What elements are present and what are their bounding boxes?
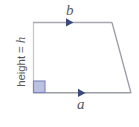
top-arrow-right-icon	[66, 18, 74, 26]
label-bottom-side-a: a	[77, 97, 85, 112]
trapezoid-diagram: b a height = h	[0, 0, 139, 127]
height-variable-text: h	[13, 37, 28, 43]
height-prefix-text: height =	[15, 43, 27, 87]
label-top-side-b: b	[66, 3, 74, 18]
right-slant-edge-line	[112, 23, 131, 94]
right-angle-square-icon	[34, 81, 46, 93]
label-height-equals-h: height = h	[14, 29, 28, 95]
